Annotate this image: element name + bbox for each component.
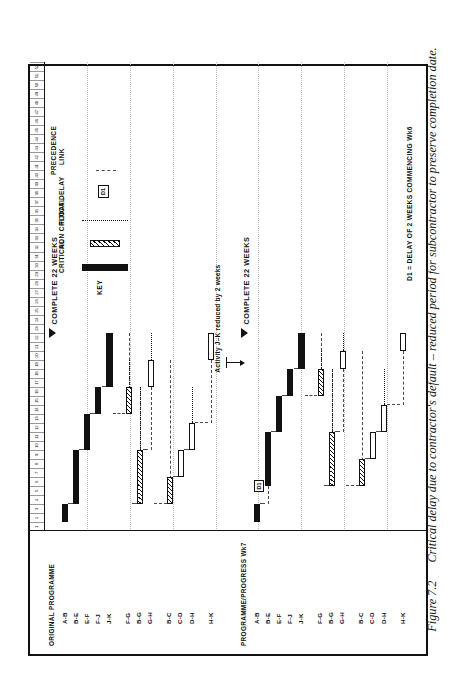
- activity-bar-open: [178, 450, 184, 477]
- week-tick: 30: [30, 261, 44, 270]
- figure-page: 1234567891011121314151617181920212223242…: [0, 0, 460, 678]
- week-tick: 34: [30, 224, 44, 233]
- activity-bar-noncritical: [137, 450, 143, 504]
- key-swatch-precedence: [96, 170, 116, 171]
- week-tick: 21: [30, 342, 44, 351]
- activity-bar-noncritical: [329, 432, 335, 486]
- precedence-link: [154, 503, 167, 504]
- activity-label: B-G: [327, 612, 334, 624]
- week-tick: 51: [30, 71, 44, 80]
- week-tick: 36: [30, 206, 44, 215]
- key-label-precedence-2: LINK: [58, 148, 65, 165]
- activity-bar-critical: [298, 333, 304, 369]
- week-tick: 20: [30, 351, 44, 360]
- week-tick: 46: [30, 116, 44, 125]
- precedence-link: [343, 369, 344, 432]
- week-tick: 4: [30, 495, 44, 504]
- activity-label: J-K: [297, 613, 304, 624]
- week-scale: 1234567891011121314151617181920212223242…: [30, 62, 44, 531]
- activity-bar-critical: [84, 414, 90, 450]
- key-swatch-float: [82, 220, 128, 221]
- activity-bar-critical: [73, 450, 79, 504]
- float-line: [384, 369, 385, 405]
- week-tick: 31: [30, 252, 44, 261]
- week-tick: 16: [30, 387, 44, 396]
- float-line: [129, 360, 130, 387]
- activity-bar-open: [381, 405, 387, 432]
- week-tick: 19: [30, 360, 44, 369]
- week-tick: 47: [30, 107, 44, 116]
- week-tick: 35: [30, 215, 44, 224]
- week-tick: 17: [30, 378, 44, 387]
- precedence-link: [268, 486, 269, 504]
- week-tick: 45: [30, 125, 44, 134]
- key-label-float: FLOAT: [58, 202, 65, 225]
- activity-label: H-K: [207, 612, 214, 624]
- bar-plot-area: COMPLETE 22 WEEKSCOMPLETE 22 WEEKSD1Acti…: [44, 62, 430, 531]
- week-tick: 25: [30, 306, 44, 315]
- activity-bar-noncritical: [318, 369, 324, 396]
- figure-number: Figure 7.2: [425, 580, 439, 631]
- activity-label: E-F: [83, 613, 90, 624]
- activity-bar-critical: [265, 432, 271, 486]
- week-tick: 5: [30, 486, 44, 495]
- activity-bar-critical: [287, 369, 293, 396]
- activity-label: B-C: [357, 612, 364, 624]
- week-tick: 43: [30, 143, 44, 152]
- key-label-delay: DELAY: [58, 177, 65, 200]
- chart-frame: 1234567891011121314151617181920212223242…: [28, 64, 428, 656]
- float-line: [321, 351, 322, 369]
- week-tick: 14: [30, 405, 44, 414]
- completion-marker: [241, 328, 248, 338]
- week-tick: 33: [30, 233, 44, 242]
- week-tick: 9: [30, 450, 44, 459]
- week-tick: 22: [30, 333, 44, 342]
- programme-group-title: ORIGINAL PROGRAMME: [48, 564, 55, 646]
- activity-bar-noncritical: [167, 477, 173, 504]
- activity-label: F-G: [124, 613, 131, 624]
- week-tick: 7: [30, 468, 44, 477]
- week-tick: 6: [30, 477, 44, 486]
- activity-bar-open: [340, 351, 346, 369]
- activity-label: B-E: [264, 613, 271, 624]
- week-tick: 49: [30, 89, 44, 98]
- week-tick: 37: [30, 197, 44, 206]
- key-swatch-critical: [82, 264, 128, 271]
- precedence-link: [211, 360, 212, 423]
- week-tick: 41: [30, 161, 44, 170]
- activity-label: H-K: [399, 612, 406, 624]
- week-tick: 28: [30, 279, 44, 288]
- activity-label: J-K: [105, 613, 112, 624]
- activity-bar-noncritical: [126, 387, 132, 414]
- week-tick: 29: [30, 270, 44, 279]
- figure-caption-text: Critical delay due to contractor's defau…: [425, 47, 439, 562]
- annotation-activity-reduced: Activity J–K reduced by 2 weeks: [214, 265, 221, 373]
- activity-bar-critical: [106, 333, 112, 387]
- activity-bar-critical: [95, 387, 101, 414]
- completion-marker: [49, 328, 56, 338]
- activity-bar-critical: [62, 504, 68, 522]
- activity-label: C-D: [368, 612, 375, 624]
- rotated-figure-wrapper: 1234567891011121314151617181920212223242…: [0, 0, 460, 678]
- week-tick: 15: [30, 396, 44, 405]
- completion-label: COMPLETE 22 WEEKS: [242, 237, 251, 325]
- week-tick: 48: [30, 98, 44, 107]
- activity-bar-open: [400, 333, 406, 351]
- activity-bar-critical: [276, 396, 282, 432]
- week-tick: 10: [30, 441, 44, 450]
- precedence-link: [335, 431, 340, 432]
- activity-label: G-H: [338, 612, 345, 624]
- activity-label-column: ORIGINAL PROGRAMMEA-BB-EE-FF-JJ-KF-GB-GG…: [44, 531, 430, 654]
- float-line: [151, 333, 152, 360]
- activity-label: D-H: [380, 612, 387, 624]
- week-tick: 23: [30, 324, 44, 333]
- week-tick: 42: [30, 152, 44, 161]
- key-title: KEY: [96, 280, 103, 295]
- week-tick: 40: [30, 170, 44, 179]
- key-swatch-non-critical: [90, 240, 120, 247]
- precedence-link: [260, 503, 265, 504]
- week-tick: 27: [30, 288, 44, 297]
- float-line: [343, 333, 344, 351]
- delay-marker: D1: [254, 480, 264, 492]
- activity-label: D-H: [188, 612, 195, 624]
